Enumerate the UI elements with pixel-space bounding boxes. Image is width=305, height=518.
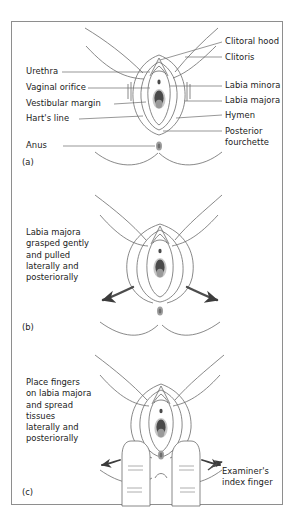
buttock-arc-right [159, 152, 222, 165]
traction-arrow-left-b [103, 287, 133, 300]
clitoris-shape-c [154, 400, 168, 403]
panel-tag-b: (b) [22, 322, 34, 332]
hymen-ring [156, 100, 163, 108]
traction-arrow-right-b [187, 287, 217, 300]
hatch-right [187, 82, 190, 101]
label-vestibular-margin: Vestibular margin [26, 98, 101, 109]
label-examiner-index-finger: Examiner's index finger [222, 466, 273, 488]
panel-b-caption: Labia majora grasped gently and pulled l… [26, 227, 118, 283]
label-clitoral-hood: Clitoral hood [225, 36, 279, 47]
urethra-opening-c [159, 409, 162, 414]
examiner-finger-right [172, 441, 200, 506]
hymen-ring-c [158, 429, 165, 437]
hymen-ring-b [157, 269, 164, 277]
anus-center [158, 143, 161, 148]
traction-arrows-b [103, 287, 217, 300]
leader-harts-line [79, 116, 143, 119]
leader-lines-right-a [160, 42, 222, 131]
label-harts-line: Hart's line [26, 113, 69, 124]
buttock-arc-left [95, 152, 158, 165]
buttock-arc-right-b [162, 322, 220, 335]
spread-arrow-left-c [102, 460, 120, 465]
clitoris-shape-b [153, 240, 167, 243]
groin-arc-right [173, 46, 216, 78]
panel-tag-a: (a) [22, 157, 34, 167]
perineal-notch-c [155, 474, 167, 479]
urethra-opening [157, 80, 160, 85]
groin-arc-left [86, 46, 144, 79]
label-labia-majora: Labia majora [225, 95, 280, 106]
label-labia-minora: Labia minora [225, 80, 280, 91]
label-vaginal-orifice: Vaginal orifice [26, 82, 86, 93]
thigh-left-line [85, 28, 143, 73]
label-anus: Anus [26, 140, 47, 151]
panel-c-caption: Place fingers on labia majora and spread… [26, 377, 118, 445]
groin-arc-right-c [173, 375, 220, 406]
thigh-right-line-c [175, 355, 224, 400]
examiner-finger-left [122, 441, 150, 506]
buttock-arc-left-b [100, 322, 158, 335]
hatch-left [128, 82, 131, 101]
label-urethra: Urethra [26, 66, 58, 77]
anus-center-c [160, 452, 163, 457]
label-posterior-fourchette: Posterior fourchette [225, 126, 269, 148]
anus-center-b [159, 308, 162, 313]
leader-hymen [176, 115, 222, 118]
panel-tag-c: (c) [22, 487, 33, 497]
label-hymen: Hymen [225, 110, 255, 121]
spread-arrows-c [102, 460, 220, 465]
figure-root: Urethra Vaginal orifice Vestibular margi… [0, 0, 305, 518]
label-clitoris: Clitoris [225, 52, 254, 63]
urethra-opening-b [158, 249, 161, 254]
